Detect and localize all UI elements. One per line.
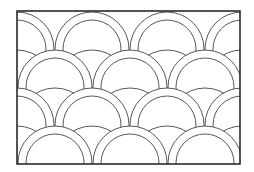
shell-outer-arc bbox=[0, 126, 17, 172]
shell bbox=[0, 126, 17, 172]
shell-outer-arc bbox=[0, 50, 17, 124]
back-arc bbox=[243, 88, 254, 162]
shell-outer-arc bbox=[243, 50, 254, 124]
shell-outer-arc bbox=[243, 126, 254, 172]
shell bbox=[0, 50, 17, 124]
shell bbox=[243, 50, 254, 124]
shell-inner-arc bbox=[0, 58, 9, 116]
shell-rows bbox=[0, 12, 254, 172]
clamshell-pattern bbox=[0, 0, 254, 172]
back-arc bbox=[0, 88, 17, 162]
shell-inner-arc bbox=[0, 134, 9, 172]
shell-inner-arc bbox=[251, 134, 254, 172]
shell bbox=[243, 126, 254, 172]
shell-row-4 bbox=[0, 126, 254, 172]
shell-inner-arc bbox=[251, 58, 254, 116]
